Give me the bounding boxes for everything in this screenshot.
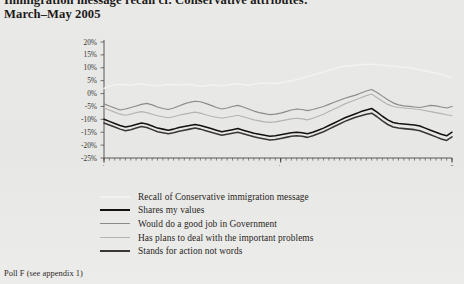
legend-item-label: Has plans to deal with the important pro… <box>138 233 313 243</box>
legend-item-label: Recall of Conservative immigration messa… <box>138 192 309 202</box>
source-note: Poll F (see appendix 1) <box>4 269 83 278</box>
chart-page: Immigration message recall cf. Conservat… <box>0 0 464 284</box>
svg-text:10%: 10% <box>83 63 97 72</box>
chart-legend: Recall of Conservative immigration messa… <box>100 190 430 258</box>
line-chart-svg: 20%15%10%5%0%-5%-10%-15%-20%-25% 1-4 Mar… <box>0 36 464 166</box>
chart-title: Immigration message recall cf. Conservat… <box>4 0 454 21</box>
data-series-group <box>104 64 452 140</box>
y-axis-tick-labels: 20%15%10%5%0%-5%-10%-15%-20%-25% <box>81 38 97 163</box>
y-axis-ticks <box>101 42 105 158</box>
svg-text:20%: 20% <box>83 38 97 47</box>
svg-text:0%: 0% <box>87 89 97 98</box>
legend-item: Stands for action not words <box>100 244 430 258</box>
legend-item: Recall of Conservative immigration messa… <box>100 190 430 204</box>
svg-text:1-4 Mar: 1-4 Mar <box>101 164 109 166</box>
legend-item-label: Would do a good job in Government <box>138 219 277 229</box>
svg-text:10-04 May: 10-04 May <box>449 165 457 166</box>
chart-plot-area: 20%15%10%5%0%-5%-10%-15%-20%-25% 1-4 Mar… <box>0 36 464 166</box>
svg-text:-20%: -20% <box>81 141 97 150</box>
svg-text:-15%: -15% <box>81 128 97 137</box>
svg-text:-5%: -5% <box>85 102 97 111</box>
svg-text:-25%: -25% <box>81 154 97 163</box>
svg-text:5%: 5% <box>87 76 97 85</box>
svg-text:15%: 15% <box>83 50 97 59</box>
legend-item-label: Stands for action not words <box>138 246 242 256</box>
x-axis-tick-labels: 1-4 Mar3-6 Apr10-04 May <box>101 158 457 166</box>
title-line-2: March–May 2005 <box>4 8 454 22</box>
svg-text:-10%: -10% <box>81 115 97 124</box>
legend-item: Has plans to deal with the important pro… <box>100 231 430 245</box>
axis-lines <box>104 40 452 158</box>
legend-item: Would do a good job in Government <box>100 217 430 231</box>
svg-text:3-6 Apr: 3-6 Apr <box>277 164 285 166</box>
legend-item: Shares my values <box>100 204 430 218</box>
legend-item-label: Shares my values <box>138 205 204 215</box>
